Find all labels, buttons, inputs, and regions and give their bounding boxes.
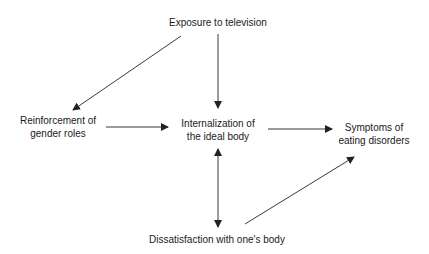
node-label-line: gender roles <box>20 127 96 140</box>
node-exposure-to-television: Exposure to television <box>169 16 267 29</box>
node-label-line: Internalization of <box>181 117 254 130</box>
node-label-line: Exposure to television <box>169 16 267 29</box>
node-internalization-of-ideal-body: Internalization of the ideal body <box>181 117 254 143</box>
node-label-line: eating disorders <box>338 134 409 147</box>
node-dissatisfaction-with-body: Dissatisfaction with one's body <box>149 233 285 246</box>
node-label-line: Dissatisfaction with one's body <box>149 233 285 246</box>
arrow-exposure-to-reinforcement <box>73 36 181 110</box>
node-symptoms-of-eating-disorders: Symptoms of eating disorders <box>338 121 409 147</box>
arrow-dissatisfaction-to-symptoms <box>245 157 354 224</box>
node-label-line: the ideal body <box>181 130 254 143</box>
node-label-line: Symptoms of <box>338 121 409 134</box>
node-reinforcement-of-gender-roles: Reinforcement of gender roles <box>20 114 96 140</box>
node-label-line: Reinforcement of <box>20 114 96 127</box>
diagram-canvas: Exposure to television Reinforcement of … <box>0 0 429 254</box>
